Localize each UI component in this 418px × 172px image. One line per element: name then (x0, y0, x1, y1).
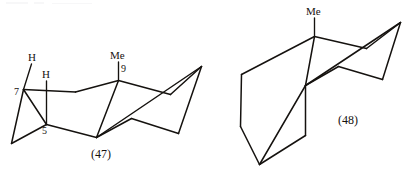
structure-48-drawing (0, 0, 418, 172)
figure-canvas: H H 7 5 Me 9 (47) Me (48) (0, 0, 418, 172)
bond-48-fusion-bottom-to-right-apex (306, 23, 401, 86)
caption-structure-48: (48) (338, 114, 358, 126)
bond-48-upper-left-to-left-mid (241, 75, 242, 127)
bond-48-cme-to-fusion-bottom (306, 37, 315, 86)
bond-48-right-apex-to-lower-right (383, 23, 401, 80)
bond-48-cme-to-upper-right (315, 37, 367, 49)
methyl-label-48: Me (306, 6, 321, 17)
bond-48-bottom-apex-to-lower-right (260, 136, 306, 165)
bond-48-cme-to-upper-left (242, 37, 315, 75)
bond-48-left-mid-to-bottom-apex (241, 127, 260, 165)
bond-48-bottom-apex-to-fusion-bottom (260, 86, 306, 165)
bond-48-lower-right-to-bottom-mid (339, 67, 383, 80)
